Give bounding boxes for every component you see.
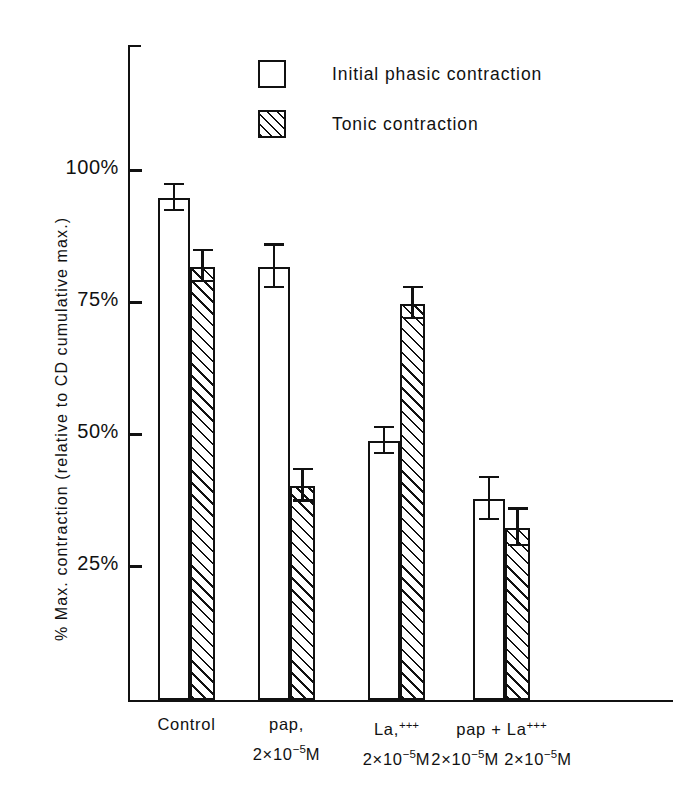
bar-control-tonic-errorcap-bottom bbox=[193, 280, 213, 282]
y-tick-100: 100% bbox=[128, 169, 142, 171]
bar-pap-tonic-errorcap-bottom bbox=[293, 499, 313, 501]
y-axis-top-cap bbox=[128, 45, 141, 47]
bar-la-phasic-errorcap-bottom bbox=[374, 452, 394, 454]
bar-pap-la-tonic-errorbar bbox=[516, 510, 518, 547]
bar-pap-tonic-errorbar bbox=[301, 470, 303, 502]
bar-pap-phasic bbox=[258, 267, 290, 700]
y-tick-label-25: 25% bbox=[77, 552, 119, 575]
bar-pap-tonic-errorcap-top bbox=[293, 468, 313, 470]
bar-control-tonic-errorbar bbox=[201, 251, 203, 283]
y-tick-75: 75% bbox=[128, 301, 142, 303]
y-tick-25: 25% bbox=[128, 565, 142, 567]
bar-pap-phasic-errorcap-top bbox=[264, 243, 284, 245]
x-label-pap-la-line2: 2×10−5M 2×10−5M bbox=[407, 742, 597, 772]
bar-pap-la-tonic-errorcap-top bbox=[508, 507, 528, 509]
bar-control-tonic-errorcap-top bbox=[193, 249, 213, 251]
bar-pap-la-phasic-errorcap-bottom bbox=[479, 518, 499, 520]
x-label-pap-la: pap + La+++ 2×10−5M 2×10−5M bbox=[407, 712, 597, 771]
y-tick-label-75: 75% bbox=[77, 288, 119, 311]
x-label-control-line1: Control bbox=[157, 715, 215, 733]
x-axis-line bbox=[128, 700, 673, 702]
bar-la-tonic-errorcap-bottom bbox=[403, 317, 423, 319]
bar-pap-la-tonic-errorcap-bottom bbox=[508, 544, 528, 546]
bar-control-phasic-errorbar bbox=[173, 185, 175, 211]
bar-la-tonic-errorbar bbox=[411, 288, 413, 320]
bar-pap-la-phasic-errorbar bbox=[488, 478, 490, 520]
bar-chart-figure: Initial phasic contraction Tonic contrac… bbox=[0, 0, 686, 801]
bar-control-phasic bbox=[158, 198, 190, 700]
y-tick-label-100: 100% bbox=[65, 156, 119, 179]
x-axis-labels: Control pap, 2×10−5M La,+++ 2×10−5M pap … bbox=[128, 712, 686, 798]
plot-area: 100%75%50%25% bbox=[128, 45, 673, 702]
bar-la-tonic bbox=[400, 304, 425, 700]
bar-la-phasic-errorcap-top bbox=[374, 426, 394, 428]
bar-pap-la-phasic-errorcap-top bbox=[479, 476, 499, 478]
x-label-pap-la-line1: pap + La+++ bbox=[456, 720, 546, 738]
bar-control-phasic-errorcap-top bbox=[164, 183, 184, 185]
bar-control-tonic bbox=[190, 267, 215, 700]
y-axis-label: % Max. contraction (relative to CD cumul… bbox=[53, 179, 71, 679]
bar-la-phasic bbox=[368, 441, 400, 700]
bar-la-phasic-errorbar bbox=[383, 428, 385, 454]
bar-pap-phasic-errorbar bbox=[273, 246, 275, 288]
bar-pap-tonic bbox=[290, 486, 315, 700]
y-tick-label-50: 50% bbox=[77, 420, 119, 443]
bar-control-phasic-errorcap-bottom bbox=[164, 209, 184, 211]
y-axis-line bbox=[128, 45, 130, 702]
bar-pap-la-tonic bbox=[505, 528, 530, 700]
bar-pap-phasic-errorcap-bottom bbox=[264, 286, 284, 288]
x-label-pap-line1: pap, bbox=[269, 715, 304, 733]
bar-la-tonic-errorcap-top bbox=[403, 286, 423, 288]
y-tick-50: 50% bbox=[128, 433, 142, 435]
bar-pap-la-phasic bbox=[473, 499, 505, 700]
